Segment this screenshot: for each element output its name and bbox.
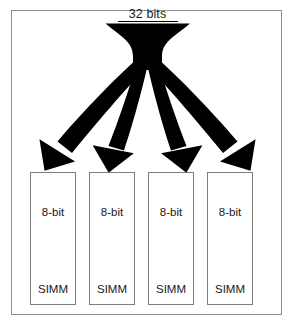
- simm-module-4: 8-bit SIMM: [207, 172, 253, 305]
- simm-width-label: 8-bit: [149, 206, 193, 219]
- simm-module-3: 8-bit SIMM: [148, 172, 194, 305]
- simm-width-label: 8-bit: [90, 206, 134, 219]
- simm-module-1: 8-bit SIMM: [30, 172, 76, 305]
- simm-name-label: SIMM: [149, 283, 193, 296]
- bus-width-label: 32 bits: [0, 7, 295, 21]
- simm-name-label: SIMM: [208, 283, 252, 296]
- simm-name-label: SIMM: [31, 283, 75, 296]
- diagram-canvas: 32 bits 8-bit SIMM 8-bit SIMM 8-bit SIMM…: [0, 0, 295, 327]
- simm-module-2: 8-bit SIMM: [89, 172, 135, 305]
- simm-name-label: SIMM: [90, 283, 134, 296]
- simm-width-label: 8-bit: [31, 206, 75, 219]
- bus-trunk-shape: [106, 24, 191, 71]
- simm-width-label: 8-bit: [208, 206, 252, 219]
